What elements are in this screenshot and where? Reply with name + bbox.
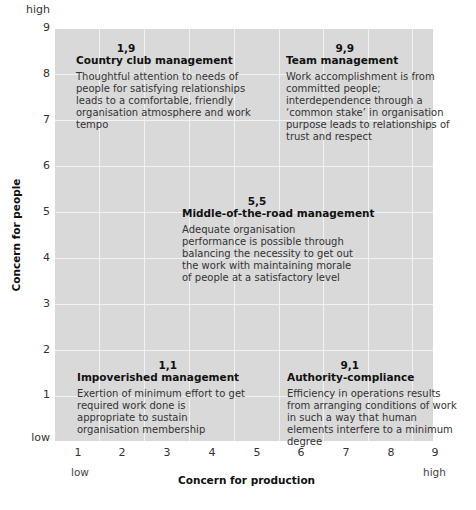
y-tick: 5 bbox=[20, 206, 50, 218]
style-title: Impoverished management bbox=[77, 371, 247, 384]
y-tick: 6 bbox=[20, 160, 50, 172]
y-tick: 2 bbox=[20, 344, 50, 356]
style-country-club: 1,9 Country club management Thoughtful a… bbox=[76, 43, 256, 131]
y-high-label: high bbox=[20, 4, 50, 16]
y-tick: 3 bbox=[20, 298, 50, 310]
style-team: 9,9 Team management Work accomplishment … bbox=[286, 43, 454, 143]
style-title: Team management bbox=[286, 54, 454, 67]
style-authority-compliance: 9,1 Authority-compliance Efficiency in o… bbox=[287, 360, 462, 448]
style-coord: 5,5 bbox=[182, 196, 332, 207]
style-coord: 1,9 bbox=[76, 43, 176, 54]
style-description: Thoughtful attention to needs of people … bbox=[76, 71, 256, 131]
x-tick: 1 bbox=[68, 446, 88, 459]
style-impoverished: 1,1 Impoverished management Exertion of … bbox=[77, 360, 247, 436]
style-coord: 9,1 bbox=[287, 360, 359, 371]
grid-line bbox=[55, 350, 433, 351]
grid-line bbox=[55, 304, 433, 305]
style-title: Authority-compliance bbox=[287, 371, 462, 384]
style-title: Country club management bbox=[76, 54, 256, 67]
x-tick: 2 bbox=[112, 446, 132, 459]
y-tick: 9 bbox=[20, 22, 50, 34]
x-tick: 5 bbox=[247, 446, 267, 459]
style-description: Adequate organisation performance is pos… bbox=[182, 224, 357, 284]
style-title: Middle-of-the-road management bbox=[182, 207, 357, 220]
grid-line bbox=[55, 166, 433, 167]
x-tick: 4 bbox=[202, 446, 222, 459]
x-tick: 3 bbox=[157, 446, 177, 459]
x-low-label: low bbox=[71, 466, 89, 478]
style-description: Work accomplishment is from committed pe… bbox=[286, 71, 454, 143]
y-tick: 1 bbox=[20, 389, 50, 401]
x-axis-title: Concern for production bbox=[178, 474, 315, 486]
style-description: Exertion of minimum effort to get requir… bbox=[77, 388, 247, 436]
y-low-label: low bbox=[20, 432, 50, 444]
y-axis-title: Concern for people bbox=[10, 179, 22, 292]
style-coord: 1,1 bbox=[77, 360, 177, 371]
style-middle-of-the-road: 5,5 Middle-of-the-road management Adequa… bbox=[182, 196, 357, 284]
y-tick: 8 bbox=[20, 68, 50, 80]
x-high-label: high bbox=[423, 466, 446, 478]
y-tick: 7 bbox=[20, 114, 50, 126]
y-tick: 4 bbox=[20, 252, 50, 264]
style-coord: 9,9 bbox=[286, 43, 354, 54]
style-description: Efficiency in operations results from ar… bbox=[287, 388, 462, 448]
